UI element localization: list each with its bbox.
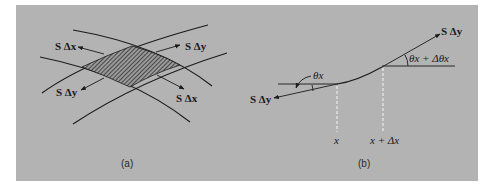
membrane-diagram: S Δx S Δy S Δy S Δx (a) S Δy S Δy θx θx … [0,0,495,193]
label-upper-left: S Δx [55,40,77,52]
label-lower-left: S Δy [56,86,78,98]
label-upper-right: S Δy [185,40,207,52]
label-x-plus-dx: x + Δx [369,134,399,146]
label-left-force: S Δy [250,93,272,105]
label-angle-right: θx + Δθx [409,52,449,64]
label-angle-left: θx [313,69,323,81]
label-right-force: S Δy [441,25,463,37]
caption-b: (b) [358,158,370,169]
label-lower-right: S Δx [176,92,198,104]
label-x: x [333,134,339,146]
figure-background [16,5,478,181]
caption-a: (a) [121,158,133,169]
